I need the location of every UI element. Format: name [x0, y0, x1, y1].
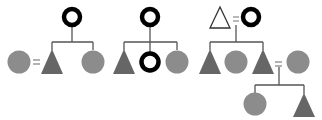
female-circle-icon — [82, 51, 105, 74]
kinship-diagram-svg — [0, 0, 322, 120]
kinship-diagram — [0, 0, 322, 120]
panel-2 — [113, 9, 189, 74]
marriage-equals-icon — [233, 17, 239, 21]
female-circle-icon — [287, 51, 310, 74]
panel-3 — [199, 7, 315, 117]
female-circle-icon — [244, 93, 267, 116]
male-triangle-icon — [113, 49, 135, 74]
panel-1 — [8, 9, 105, 74]
male-triangle-icon — [252, 49, 274, 74]
female-circle-icon — [8, 51, 31, 74]
male-triangle-icon — [199, 49, 221, 74]
male-outline-triangle-icon — [210, 7, 230, 28]
ego-ring-icon — [142, 54, 159, 71]
marriage-equals-icon — [33, 60, 40, 64]
male-triangle-icon — [293, 93, 315, 117]
female-circle-icon — [166, 51, 189, 74]
female-circle-icon — [225, 51, 248, 74]
ego-ring-icon — [142, 9, 158, 25]
ego-ring-icon — [64, 9, 80, 25]
male-triangle-icon — [41, 49, 63, 74]
ego-ring-icon — [243, 9, 259, 25]
marriage-equals-icon — [275, 62, 282, 66]
